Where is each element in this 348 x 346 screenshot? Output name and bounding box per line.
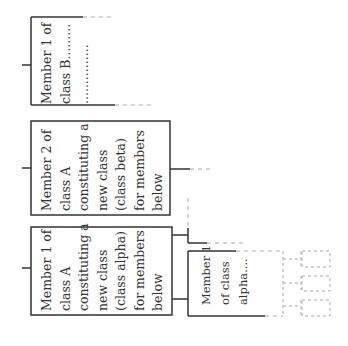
label-line: for members bbox=[131, 223, 150, 311]
label-line: Member 1 bbox=[197, 245, 216, 305]
label-line: Member 1 of bbox=[38, 23, 57, 104]
label-line: of class bbox=[216, 245, 235, 305]
label-line: constituting a bbox=[75, 223, 94, 311]
node-label-member2-class-a: Member 2 of class A constituting a new c… bbox=[38, 123, 168, 211]
node-label-member1-class-a: Member 1 of class A constituting a new c… bbox=[38, 223, 168, 311]
branch-connector-alpha bbox=[188, 198, 246, 243]
label-line: new class bbox=[94, 123, 113, 211]
node-label-member1-class-b: Member 1 of class B......... ...........… bbox=[38, 23, 94, 104]
label-line: class B......... bbox=[57, 23, 76, 104]
label-line: new class bbox=[94, 223, 113, 311]
label-line: class A bbox=[57, 223, 76, 311]
label-line: (class alpha) bbox=[112, 223, 131, 311]
node-label-member1-class-alpha: Member 1 of class alpha.... bbox=[197, 245, 253, 305]
label-line: ............... bbox=[75, 23, 94, 104]
label-line: below bbox=[149, 123, 168, 211]
label-line: class A bbox=[57, 123, 76, 211]
label-line: Member 1 of bbox=[38, 223, 57, 311]
tree-diagram: Member 1 of class B......... ...........… bbox=[0, 0, 348, 346]
label-line: Member 2 of bbox=[38, 123, 57, 211]
placeholder-subtree bbox=[283, 251, 330, 316]
label-line: constituting a bbox=[75, 123, 94, 211]
label-line: below bbox=[149, 223, 168, 311]
label-line: for members bbox=[131, 123, 150, 211]
label-line: alpha.... bbox=[234, 245, 253, 305]
label-line: (class beta) bbox=[112, 123, 131, 211]
